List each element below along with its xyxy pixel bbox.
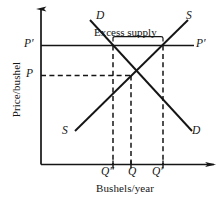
- x-axis-title: Bushels/year: [66, 183, 184, 194]
- quantity-demanded-low-label: Q″: [101, 166, 114, 178]
- supply-curve-label-top: S: [186, 10, 192, 22]
- figure-canvas: Price/bushel Bushels/year P′ P′ P Q″ Q Q…: [0, 0, 222, 200]
- excess-supply-annotation: Excess supply: [94, 27, 157, 38]
- price-floor-label-right: P′: [196, 38, 206, 50]
- y-axis-title: Price/bushel: [11, 42, 22, 138]
- demand-curve-label-bottom: D: [192, 125, 200, 137]
- supply-curve-label-bottom: S: [62, 125, 68, 137]
- quantity-equilibrium-label: Q: [128, 166, 136, 178]
- demand-curve-label-top: D: [96, 10, 104, 22]
- price-floor-label-left: P′: [24, 38, 34, 50]
- quantity-supplied-high-label: Q′: [152, 166, 163, 178]
- equilibrium-price-label: P: [26, 68, 33, 80]
